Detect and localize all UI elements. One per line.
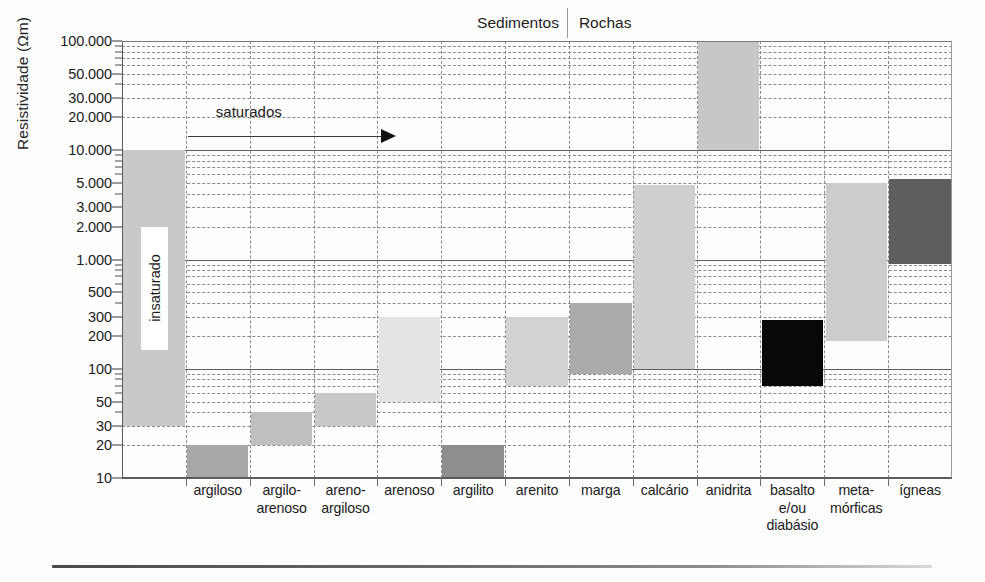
y-tick-mark-minor [115, 193, 122, 194]
y-tick-mark [112, 226, 122, 227]
chart-figure: Sedimentos Rochas Resistividade (Ωm) 100… [0, 0, 985, 582]
y-tick-mark-minor [115, 412, 122, 413]
x-label-line: argiloso [321, 500, 369, 516]
gridline-minor [122, 412, 952, 413]
x-label-line: calcário [641, 482, 689, 498]
gridline-minor [122, 167, 952, 168]
gridline-minor [122, 155, 952, 156]
y-tick-mark-minor [115, 51, 122, 52]
x-label-line: diabásio [767, 517, 819, 533]
gridline-minor [122, 426, 952, 427]
x-label-line: e/ou [779, 500, 806, 516]
group-divider [567, 8, 568, 38]
bar-meta-m-rficas [826, 183, 887, 341]
y-tick-mark [112, 425, 122, 426]
y-tick-mark-minor [115, 392, 122, 393]
gridline-minor [122, 174, 952, 175]
y-tick-mark-minor [115, 276, 122, 277]
x-label-line: arenito [516, 482, 558, 498]
y-tick-mark-minor [115, 283, 122, 284]
gridline-minor [122, 58, 952, 59]
saturados-arrow-line [188, 136, 383, 137]
gridline-minor [122, 65, 952, 66]
x-axis-label-marga: marga [569, 482, 633, 500]
x-label-line: marga [581, 482, 620, 498]
gridline-minor [122, 52, 952, 53]
gridline-minor [122, 74, 952, 75]
gridline-major [122, 150, 952, 151]
x-axis-label-argilito: argilito [441, 482, 505, 500]
bar-basalto-e-ou-diab-sio [762, 320, 823, 386]
y-tick-mark-minor [115, 84, 122, 85]
gridline-vertical [441, 41, 442, 478]
x-axis-label-gneas: ígneas [888, 482, 952, 500]
y-tick-mark-minor [115, 167, 122, 168]
x-label-line: argiloso [194, 482, 242, 498]
x-axis-labels: argilosoargilo-arenosoareno-argilosoaren… [122, 482, 952, 554]
y-tick-mark-minor [115, 155, 122, 156]
bar-arenito [506, 317, 567, 386]
y-tick-mark-minor [115, 65, 122, 66]
y-tick-mark [112, 292, 122, 293]
x-label-line: meta- [838, 482, 874, 498]
group-title-sedimentos: Sedimentos [477, 14, 559, 32]
x-label-line: anidrita [706, 482, 751, 498]
bar-anidrita [698, 41, 759, 150]
y-tick-mark [112, 401, 122, 402]
x-axis-label-argilo-arenoso: argilo-arenoso [250, 482, 314, 517]
y-tick-mark [112, 316, 122, 317]
plot-area: insaturado saturados [122, 41, 952, 478]
group-title-rochas: Rochas [579, 14, 632, 32]
y-tick-mark [112, 183, 122, 184]
x-label-line: arenoso [384, 482, 434, 498]
y-tick-mark [112, 368, 122, 369]
y-tick-mark-minor [115, 379, 122, 380]
gridline-vertical [377, 41, 378, 478]
insaturado-label: insaturado [147, 254, 163, 322]
y-tick-mark-minor [115, 160, 122, 161]
bar-arenoso [379, 317, 440, 402]
x-label-line: basalto [770, 482, 815, 498]
x-axis-label-basalto-e-ou-diab-sio: basaltoe/oudiabásio [760, 482, 824, 535]
saturados-label: saturados [216, 103, 282, 120]
y-tick-mark [112, 41, 122, 42]
y-tick-mark-minor [115, 302, 122, 303]
gridline-vertical [569, 41, 570, 478]
y-tick-mark [112, 445, 122, 446]
x-axis-label-anidrita: anidrita [697, 482, 761, 500]
y-tick-mark-minor [115, 46, 122, 47]
x-axis-label-calc-rio: calcário [633, 482, 697, 500]
y-tick-mark [112, 150, 122, 151]
bottom-rule [52, 565, 932, 568]
group-header: Sedimentos Rochas [0, 0, 985, 40]
gridline-major [122, 41, 952, 42]
x-label-line: areno- [325, 482, 365, 498]
gridline-minor [122, 46, 952, 47]
y-tick-mark [112, 478, 122, 479]
x-axis-label-meta-m-rficas: meta-mórficas [824, 482, 888, 517]
x-axis-label-areno-argiloso: areno-argiloso [314, 482, 378, 517]
insaturado-label-box: insaturado [141, 227, 168, 350]
gridline-minor [122, 98, 952, 99]
y-tick-mark [112, 98, 122, 99]
y-tick-mark-minor [115, 385, 122, 386]
x-axis-label-arenoso: arenoso [377, 482, 441, 500]
x-label-line: argilo- [262, 482, 300, 498]
gridline-minor [122, 402, 952, 403]
bar-argilito [442, 445, 503, 478]
x-axis-label-argiloso: argiloso [186, 482, 250, 500]
bar-areno-argiloso [315, 393, 376, 426]
y-tick-mark-minor [115, 174, 122, 175]
gridline-minor [122, 386, 952, 387]
y-axis-tick-marks [0, 41, 122, 478]
bar-argiloso [187, 445, 248, 478]
y-tick-mark [112, 335, 122, 336]
y-tick-mark-minor [115, 270, 122, 271]
gridline-vertical [186, 41, 187, 478]
x-label-line: ígneas [899, 482, 941, 498]
x-label-line: arenoso [256, 500, 306, 516]
x-axis-label-arenito: arenito [505, 482, 569, 500]
bar-gneas [889, 179, 950, 265]
bar-marga [570, 303, 631, 374]
y-tick-mark [112, 73, 122, 74]
